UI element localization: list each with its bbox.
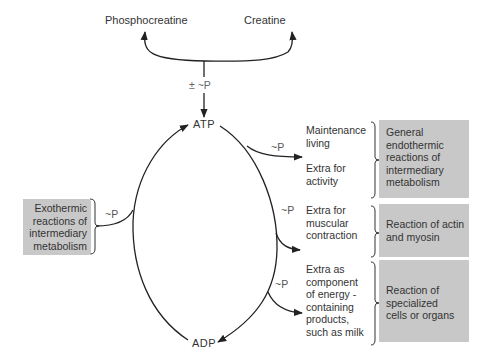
output-2-uses: Extra for muscular contraction <box>306 204 357 242</box>
box-line: Reaction of actin <box>386 218 469 231</box>
box-line: and myosin <box>386 231 469 244</box>
cycle-left-arc <box>133 125 188 340</box>
box-line: General <box>386 126 469 139</box>
box-line: reactions of <box>23 215 87 228</box>
use-line: such as milk <box>306 326 364 339</box>
use-line: activity <box>306 175 366 188</box>
general-endothermic-box: General endothermic reactions of interme… <box>379 120 469 198</box>
use-line: Extra as <box>306 263 364 276</box>
use-line: containing <box>306 301 364 314</box>
use-line: muscular <box>306 217 357 230</box>
exothermic-reactions-box: Exothermic reactions of intermediary met… <box>23 199 91 255</box>
box-line: metabolism <box>386 176 469 189</box>
atp-node: ATP <box>193 118 215 130</box>
box-line: metabolism <box>23 240 87 253</box>
use-line: Maintenance <box>306 124 366 137</box>
output-3-uses: Extra as component of energy - containin… <box>306 263 364 338</box>
brace-output-2 <box>371 206 379 257</box>
use-line: of energy - <box>306 288 364 301</box>
use-line: Extra for <box>306 162 366 175</box>
box-line: intermediary <box>23 227 87 240</box>
box-line: intermediary <box>386 164 469 177</box>
input-p-label: ~P <box>105 208 118 221</box>
brace-output-3 <box>371 262 379 345</box>
use-line: products, <box>306 313 364 326</box>
output-3-curve <box>268 292 302 313</box>
adp-node: ADP <box>192 337 216 349</box>
spacer <box>306 149 366 162</box>
specialized-cells-box: Reaction of specialized cells or organs <box>379 260 469 342</box>
box-line: reactions of <box>386 151 469 164</box>
box-line: Reaction of <box>386 284 469 297</box>
actin-myosin-box: Reaction of actin and myosin <box>379 204 469 257</box>
phosphocreatine-label: Phosphocreatine <box>105 14 188 27</box>
use-line: component <box>306 276 364 289</box>
output-3-p-label: ~P <box>275 278 288 291</box>
box-line: specialized <box>386 297 469 310</box>
use-line: living <box>306 137 366 150</box>
box-line: endothermic <box>386 139 469 152</box>
use-line: contraction <box>306 229 357 242</box>
fork-curve <box>145 32 293 61</box>
box-line: cells or organs <box>386 309 469 322</box>
cycle-right-arc <box>218 126 277 342</box>
output-2-p-label: ~P <box>281 204 294 217</box>
brace-input <box>90 199 99 254</box>
use-line: Extra for <box>306 204 357 217</box>
brace-output-1 <box>371 122 379 198</box>
output-2-curve <box>276 233 300 250</box>
output-1-p-label: ~P <box>271 141 284 154</box>
exchange-p-label: ± ~P <box>189 79 211 92</box>
output-1-uses: Maintenance living Extra for activity <box>306 124 366 187</box>
box-line: Exothermic <box>23 202 87 215</box>
creatine-label: Creatine <box>244 14 286 27</box>
